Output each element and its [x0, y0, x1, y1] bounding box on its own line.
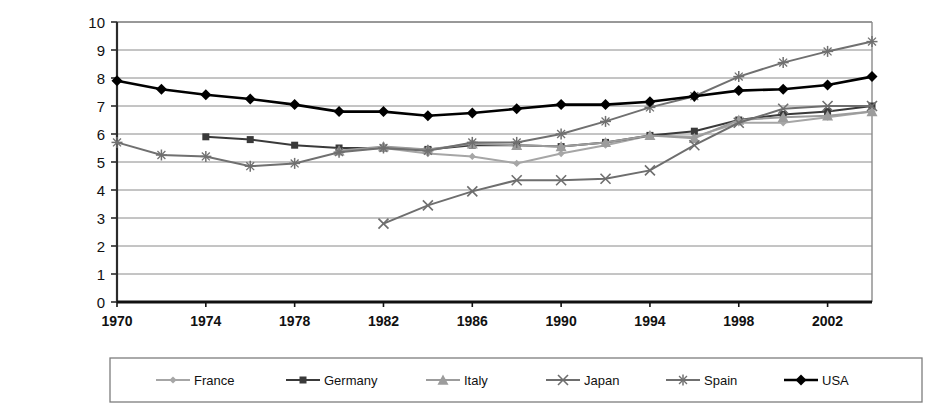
line-chart-canvas: 012345678910 197019741978198219861990199… [0, 0, 932, 413]
x-tick-label: 1978 [279, 313, 310, 329]
data-point-marker [822, 80, 833, 91]
legend-item-japan[interactable]: Japan [546, 373, 619, 388]
y-tick-label: 10 [88, 14, 105, 31]
legend-group: FranceGermanyItalyJapanSpainUSA [110, 358, 922, 402]
legend-item-france[interactable]: France [156, 373, 234, 388]
y-tick-label: 3 [97, 210, 105, 227]
y-tick-label: 2 [97, 238, 105, 255]
data-point-marker [334, 147, 345, 158]
legend-item-label: Spain [704, 373, 737, 388]
data-point-marker [778, 57, 789, 68]
data-point-marker [112, 75, 123, 86]
data-point-marker [467, 108, 478, 119]
data-point-marker [511, 137, 522, 148]
data-point-marker [289, 158, 300, 169]
legend-item-spain[interactable]: Spain [666, 373, 737, 388]
legend-item-germany[interactable]: Germany [286, 373, 378, 388]
data-point-marker [245, 161, 256, 172]
data-point-marker [600, 116, 611, 127]
series-usa [112, 71, 878, 121]
x-tick-label: 1998 [723, 313, 754, 329]
legend-item-label: France [194, 373, 234, 388]
data-point-marker [200, 89, 211, 100]
x-tick-label: 1986 [457, 313, 488, 329]
data-point-marker [796, 375, 807, 386]
data-point-marker [733, 85, 744, 96]
data-series-group [112, 36, 878, 229]
x-tick-label: 1970 [101, 313, 132, 329]
data-point-marker [156, 150, 167, 161]
legend-item-italy[interactable]: Italy [426, 373, 488, 388]
y-tick-label: 1 [97, 266, 105, 283]
data-point-marker [600, 99, 611, 110]
y-tick-labels-group: 012345678910 [88, 14, 105, 311]
legend-item-usa[interactable]: USA [784, 373, 849, 388]
y-tick-label: 4 [97, 182, 105, 199]
y-tick-label: 8 [97, 70, 105, 87]
data-point-marker [378, 143, 389, 154]
data-point-marker [202, 133, 209, 140]
data-point-marker [867, 71, 878, 82]
data-point-marker [245, 94, 256, 105]
data-point-marker [556, 99, 567, 110]
data-point-marker [822, 46, 833, 57]
x-tick-label: 1994 [634, 313, 665, 329]
legend-item-label: Germany [324, 373, 378, 388]
x-tick-labels-group: 197019741978198219861990199419982002 [101, 313, 843, 329]
y-tick-label: 5 [97, 154, 105, 171]
data-point-marker [289, 99, 300, 110]
chart-figure: LBW -- % of live births 012345678910 197… [0, 0, 932, 413]
legend-item-label: Italy [464, 373, 488, 388]
y-tick-label: 9 [97, 42, 105, 59]
y-tick-label: 0 [97, 294, 105, 311]
data-point-marker [511, 103, 522, 114]
data-point-marker [733, 71, 744, 82]
data-point-marker [422, 110, 433, 121]
series-spain [112, 36, 878, 172]
data-point-marker [291, 142, 298, 149]
legend-item-label: USA [822, 373, 849, 388]
gridlines-group [117, 22, 872, 274]
x-tick-label: 1982 [368, 313, 399, 329]
data-point-marker [678, 375, 689, 386]
data-point-marker [467, 137, 478, 148]
data-point-marker [378, 219, 388, 229]
data-point-marker [200, 151, 211, 162]
data-point-marker [156, 84, 167, 95]
data-point-marker [423, 200, 433, 210]
data-point-marker [469, 153, 476, 160]
data-point-marker [422, 145, 433, 156]
data-point-marker [112, 137, 123, 148]
x-tick-label: 1974 [190, 313, 221, 329]
y-tick-label: 6 [97, 126, 105, 143]
data-point-marker [556, 129, 567, 140]
y-tick-label: 7 [97, 98, 105, 115]
data-point-marker [247, 136, 254, 143]
x-tick-label: 2002 [812, 313, 843, 329]
data-point-marker [169, 376, 176, 383]
data-point-marker [778, 84, 789, 95]
data-point-marker [300, 377, 307, 384]
data-point-marker [867, 36, 878, 47]
data-point-marker [378, 106, 389, 117]
data-point-marker [513, 160, 520, 167]
x-tick-label: 1990 [546, 313, 577, 329]
data-point-marker [334, 106, 345, 117]
legend-item-label: Japan [584, 373, 619, 388]
